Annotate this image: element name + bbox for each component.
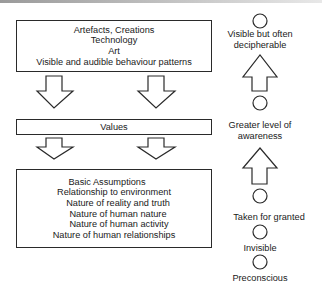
down-arrow-icon [138, 76, 175, 108]
down-arrow-icon [138, 138, 175, 159]
up-arrow-icon [243, 148, 277, 184]
awareness-label-line: Taken for granted [224, 212, 314, 223]
awareness-label-line: Invisible [220, 243, 300, 254]
circle-marker-icon [253, 96, 267, 110]
down-arrow-icon [37, 76, 73, 108]
awareness-label-line: Preconscious [220, 273, 300, 284]
circle-marker-icon [253, 255, 267, 269]
circle-marker-icon [253, 14, 267, 28]
awareness-label-line: decipherable [220, 40, 300, 51]
down-arrow-icon [37, 138, 73, 159]
awareness-label-greater: Greater level of awareness [220, 120, 300, 141]
awareness-label-line: Greater level of [220, 120, 300, 131]
awareness-label-line: awareness [220, 131, 300, 142]
awareness-label-visible: Visible but often decipherable [220, 29, 300, 50]
circle-marker-icon [253, 189, 267, 203]
circle-marker-icon [253, 225, 267, 239]
awareness-label-line: Visible but often [220, 29, 300, 40]
awareness-label-invisible: Invisible [220, 243, 300, 254]
awareness-label-preconscious: Preconscious [220, 273, 300, 284]
awareness-label-taken-for-granted: Taken for granted [224, 212, 314, 223]
up-arrow-icon [243, 55, 277, 91]
